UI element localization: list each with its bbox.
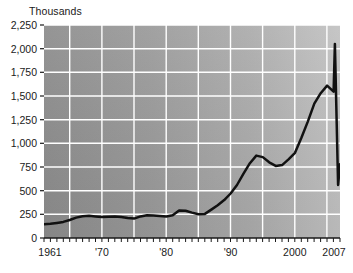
x-axis-labels: 1961 '70 '80 '90 2000 2007	[38, 246, 346, 258]
x-tick-label: '70	[95, 246, 109, 258]
y-axis-ticks	[40, 25, 44, 238]
plot-background	[44, 25, 340, 238]
y-tick-label: 250	[19, 208, 37, 220]
y-tick-label: 1,750	[11, 66, 37, 78]
y-axis-labels: 2,250 2,000 1,750 1,500 1,250 1,000 750 …	[11, 19, 37, 244]
y-tick-label: 2,250	[11, 19, 37, 31]
x-tick-label: '90	[224, 246, 238, 258]
x-tick-label: '80	[159, 246, 173, 258]
x-tick-label: 1961	[38, 246, 62, 258]
x-tick-label: 2007	[322, 246, 346, 258]
y-tick-label: 750	[19, 161, 37, 173]
y-tick-label: 0	[31, 232, 37, 244]
line-chart-plot: 2,250 2,000 1,750 1,500 1,250 1,000 750 …	[0, 0, 353, 273]
y-tick-label: 1,500	[11, 90, 37, 102]
chart-container: Thousands	[0, 0, 353, 273]
y-tick-label: 1,250	[11, 114, 37, 126]
y-tick-label: 500	[19, 185, 37, 197]
x-tick-label: 2000	[283, 246, 307, 258]
y-tick-label: 2,000	[11, 43, 37, 55]
y-tick-label: 1,000	[11, 137, 37, 149]
